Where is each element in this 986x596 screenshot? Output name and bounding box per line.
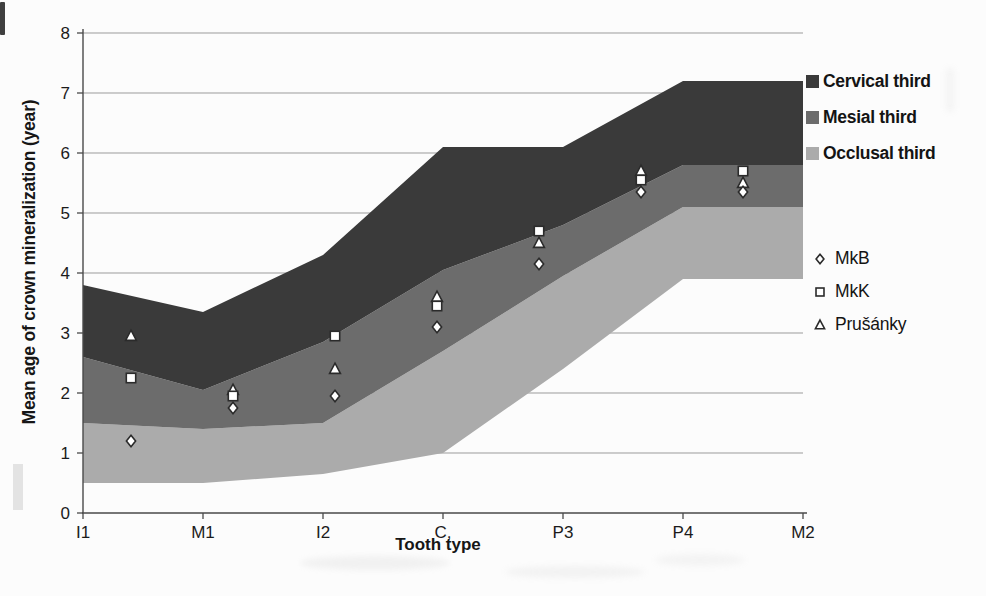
square-glyph <box>816 288 824 296</box>
triangle-marker-icon <box>812 316 828 332</box>
marker-mkk-p4 <box>636 175 645 184</box>
x-axis-title: Tooth type <box>395 535 481 555</box>
y-tick-label: 0 <box>61 504 70 523</box>
legend-item-occlusal-third: Occlusal third <box>806 144 936 162</box>
y-tick-label: 8 <box>61 24 70 43</box>
y-tick-label: 7 <box>61 84 70 103</box>
cervical-third-swatch <box>806 75 819 88</box>
marker-mkk-p3 <box>534 226 543 235</box>
diamond-marker-icon <box>812 250 828 266</box>
legend-label-mkb: MkB <box>835 248 869 269</box>
x-tick-label: M1 <box>191 523 215 542</box>
triangle-glyph <box>815 320 824 329</box>
diamond-glyph <box>816 254 824 264</box>
legend-item-prusanky: Prušánky <box>812 314 906 334</box>
x-tick-label: I2 <box>316 523 330 542</box>
x-tick-label: M2 <box>791 523 815 542</box>
square-marker-icon <box>812 283 828 299</box>
y-tick-label: 4 <box>61 264 70 283</box>
legend-label-mesial-third: Mesial third <box>823 107 917 128</box>
y-tick-label: 6 <box>61 144 70 163</box>
scanned-chart-page: 012345678I1M1I2C,P3P4M2 Mean age of crow… <box>0 0 986 596</box>
legend-label-prusanky: Prušánky <box>835 314 906 335</box>
marker-mkk-m2 <box>738 166 747 175</box>
marker-mkk-i2 <box>330 331 339 340</box>
occlusal-third-swatch <box>806 147 819 160</box>
x-tick-label: P3 <box>553 523 574 542</box>
legend-item-mkk: MkK <box>812 281 906 301</box>
legend-item-mesial-third: Mesial third <box>806 108 936 126</box>
mesial-third-swatch <box>806 111 819 124</box>
legend-label-occlusal-third: Occlusal third <box>823 143 936 164</box>
legend-label-cervical-third: Cervical third <box>823 71 931 92</box>
marker-mkk-i1 <box>126 373 135 382</box>
marker-mkk-c <box>432 301 441 310</box>
band-legend: Cervical third Mesial third Occlusal thi… <box>806 72 936 180</box>
y-tick-label: 2 <box>61 384 70 403</box>
y-tick-label: 1 <box>61 444 70 463</box>
y-tick-label: 5 <box>61 204 70 223</box>
x-tick-label: I1 <box>76 523 90 542</box>
y-axis-title: Mean age of crown mineralization (year) <box>19 100 40 425</box>
y-tick-label: 3 <box>61 324 70 343</box>
legend-item-cervical-third: Cervical third <box>806 72 936 90</box>
legend-item-mkb: MkB <box>812 248 906 268</box>
x-tick-label: P4 <box>673 523 694 542</box>
site-legend: MkB MkK Prušánky <box>812 248 906 347</box>
marker-mkk-m1 <box>228 391 237 400</box>
legend-label-mkk: MkK <box>835 281 869 302</box>
